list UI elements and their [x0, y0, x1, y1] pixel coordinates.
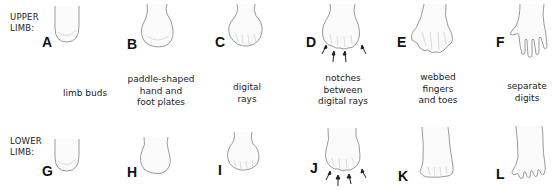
lower-limb-label-line2: LIMB:	[10, 147, 42, 158]
caption-line: digital rays	[298, 96, 388, 108]
figure-label-k: K	[398, 168, 408, 184]
lower-limb-label: LOWER LIMB:	[10, 136, 42, 158]
figure-b-upper-paddle	[137, 2, 177, 50]
caption-digital-rays: digital rays	[202, 82, 292, 105]
caption-line: separate	[482, 81, 555, 93]
upper-limb-label-line2: LIMB:	[10, 23, 39, 34]
figure-label-d: D	[306, 34, 316, 50]
figure-label-c: C	[215, 34, 225, 50]
figure-label-g: G	[42, 163, 53, 179]
figure-j-lower-notches	[322, 126, 370, 188]
upper-limb-label-line1: UPPER	[10, 12, 39, 23]
caption-separate-digits: separate digits	[482, 81, 555, 104]
caption-line: digital	[202, 82, 292, 94]
caption-line: hand and	[116, 86, 206, 98]
figure-label-e: E	[397, 34, 406, 50]
caption-webbed: webbed fingers and toes	[393, 72, 483, 107]
figure-h-lower-paddle	[138, 135, 174, 177]
caption-notches: notches between digital rays	[298, 73, 388, 108]
figure-label-h: H	[127, 164, 137, 180]
caption-line: between	[298, 85, 388, 97]
caption-line: and toes	[393, 95, 483, 107]
caption-line: paddle-shaped	[116, 74, 206, 86]
figure-label-i: I	[218, 162, 222, 178]
caption-line: webbed	[393, 72, 483, 84]
caption-paddle-shaped: paddle-shaped hand and foot plates	[116, 74, 206, 109]
figure-label-b: B	[127, 36, 137, 52]
caption-line: notches	[298, 73, 388, 85]
figure-a-upper-limb-bud	[52, 4, 82, 46]
figure-k-lower-webbed	[418, 125, 458, 183]
caption-line: digits	[482, 93, 555, 105]
figure-d-upper-notches	[318, 2, 368, 64]
figure-c-upper-digital-rays	[226, 2, 266, 50]
notch-arrows	[326, 169, 366, 186]
figure-g-lower-limb-bud	[52, 137, 82, 175]
lower-limb-label-line1: LOWER	[10, 136, 42, 147]
figure-label-l: L	[496, 166, 505, 182]
figure-label-j: J	[310, 160, 318, 176]
figure-label-a: A	[42, 34, 52, 50]
figure-f-upper-separate-digits	[508, 2, 554, 60]
figure-e-upper-webbed	[408, 2, 458, 58]
caption-line: rays	[202, 94, 292, 106]
figure-i-lower-digital-rays	[226, 130, 262, 174]
figure-label-f: F	[496, 34, 505, 50]
caption-line: fingers	[393, 84, 483, 96]
caption-line: foot plates	[116, 97, 206, 109]
figure-l-lower-separate-digits	[510, 124, 554, 184]
upper-limb-label: UPPER LIMB:	[10, 12, 39, 34]
